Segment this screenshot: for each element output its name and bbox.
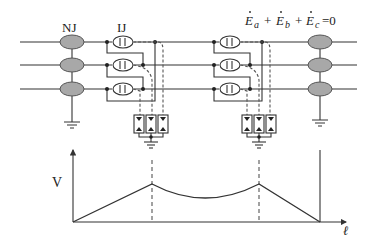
svg-text:c: c: [315, 19, 320, 30]
surge-voltage-limiter-icon: [134, 115, 168, 148]
nj-label: NJ: [62, 20, 76, 35]
svg-text:b: b: [285, 19, 290, 30]
ground-icon: [312, 120, 328, 126]
svg-text:E: E: [244, 13, 253, 28]
voltage-curve: [73, 184, 320, 222]
svg-text:a: a: [254, 19, 259, 30]
l-axis-label: ℓ: [343, 223, 349, 238]
svg-text:+: +: [264, 13, 271, 28]
svg-text:E: E: [305, 13, 314, 28]
surge-voltage-limiter-icon: [242, 115, 276, 148]
svg-text:+: +: [295, 13, 302, 28]
v-axis-label: V: [52, 175, 62, 190]
normal-joint-right: [308, 35, 332, 126]
voltage-profile-chart: [73, 150, 346, 222]
ground-icon: [64, 122, 80, 128]
ij-label: IJ: [117, 20, 126, 35]
insulating-joint-group-1: [105, 36, 168, 148]
balance-equation: E a + E b + E c =0: [244, 11, 336, 30]
svg-text:E: E: [275, 13, 284, 28]
svg-text:=0: =0: [322, 13, 336, 28]
cable-cross-bonding-diagram: NJ IJ E a + E b + E c =0 V ℓ: [0, 0, 375, 251]
insulating-joint-group-2: [212, 36, 276, 148]
normal-joint-left: [60, 35, 84, 128]
